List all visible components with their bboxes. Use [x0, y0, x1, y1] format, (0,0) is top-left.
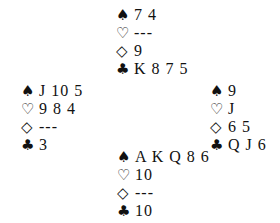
north-spades-row: ♠ 7 4 — [116, 6, 189, 24]
east-diamonds-cards: 6 5 — [228, 118, 251, 136]
east-spades-row: ♠ 9 — [210, 82, 267, 100]
north-hearts-cards: --- — [134, 24, 153, 42]
spade-icon: ♠ — [116, 6, 134, 24]
east-hearts-cards: J — [228, 100, 235, 118]
club-icon: ♣ — [21, 136, 39, 154]
heart-icon: ♡ — [210, 100, 228, 118]
east-clubs-cards: Q J 6 — [228, 136, 267, 154]
heart-icon: ♡ — [117, 166, 135, 184]
diamond-icon: ◇ — [117, 184, 135, 202]
east-spades-cards: 9 — [228, 82, 237, 100]
east-diamonds-row: ◇ 6 5 — [210, 118, 267, 136]
east-hearts-row: ♡ J — [210, 100, 267, 118]
west-clubs-row: ♣ 3 — [21, 136, 83, 154]
east-clubs-row: ♣ Q J 6 — [210, 136, 267, 154]
south-diamonds-cards: --- — [135, 184, 154, 202]
south-diamonds-row: ◇ --- — [117, 184, 210, 202]
south-hearts-cards: 10 — [135, 166, 153, 184]
north-hand: ♠ 7 4 ♡ --- ◇ 9 ♣ K 8 7 5 — [116, 6, 189, 78]
west-hearts-cards: 9 8 4 — [39, 100, 76, 118]
heart-icon: ♡ — [21, 100, 39, 118]
club-icon: ♣ — [116, 60, 134, 78]
west-diamonds-row: ◇ --- — [21, 118, 83, 136]
diamond-icon: ◇ — [21, 118, 39, 136]
north-spades-cards: 7 4 — [134, 6, 157, 24]
south-spades-cards: A K Q 8 6 — [135, 148, 210, 166]
heart-icon: ♡ — [116, 24, 134, 42]
north-diamonds-row: ◇ 9 — [116, 42, 189, 60]
north-diamonds-cards: 9 — [134, 42, 143, 60]
south-spades-row: ♠ A K Q 8 6 — [117, 148, 210, 166]
spade-icon: ♠ — [117, 148, 135, 166]
club-icon: ♣ — [210, 136, 228, 154]
west-clubs-cards: 3 — [39, 136, 48, 154]
west-diamonds-cards: --- — [39, 118, 58, 136]
north-hearts-row: ♡ --- — [116, 24, 189, 42]
east-hand: ♠ 9 ♡ J ◇ 6 5 ♣ Q J 6 — [210, 82, 267, 154]
north-clubs-row: ♣ K 8 7 5 — [116, 60, 189, 78]
diamond-icon: ◇ — [210, 118, 228, 136]
south-hearts-row: ♡ 10 — [117, 166, 210, 184]
west-hearts-row: ♡ 9 8 4 — [21, 100, 83, 118]
west-hand: ♠ J 10 5 ♡ 9 8 4 ◇ --- ♣ 3 — [21, 82, 83, 154]
diamond-icon: ◇ — [116, 42, 134, 60]
club-icon: ♣ — [117, 202, 135, 220]
south-clubs-row: ♣ 10 — [117, 202, 210, 220]
west-spades-cards: J 10 5 — [39, 82, 83, 100]
west-spades-row: ♠ J 10 5 — [21, 82, 83, 100]
south-hand: ♠ A K Q 8 6 ♡ 10 ◇ --- ♣ 10 — [117, 148, 210, 220]
north-clubs-cards: K 8 7 5 — [134, 60, 189, 78]
south-clubs-cards: 10 — [135, 202, 153, 220]
spade-icon: ♠ — [210, 82, 228, 100]
spade-icon: ♠ — [21, 82, 39, 100]
